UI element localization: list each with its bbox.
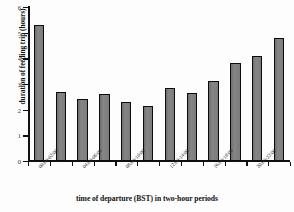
x-tick [225,162,226,166]
bar [77,99,87,161]
x-tick [72,162,73,166]
x-tick [159,162,160,166]
y-tick-label: 5 [12,29,21,36]
bar-series [28,7,290,161]
bar [34,25,44,161]
x-tick [115,162,116,166]
y-tick-label: 6 [12,4,21,11]
y-tick-label: 3 [12,81,21,88]
y-tick-label: 4 [12,55,21,62]
x-tick [203,162,204,166]
bar [252,56,262,161]
x-tick [290,162,291,166]
x-tick [137,162,138,166]
bar [230,63,240,161]
bar [165,88,175,161]
x-axis-title: time of departure (BST) in two-hour peri… [0,194,294,203]
bar [274,38,284,161]
bar-chart: duration of feeding trip (hours) 0123456… [0,0,294,212]
x-tick [268,162,269,166]
x-tick [50,162,51,166]
x-tick [181,162,182,166]
x-tick [94,162,95,166]
bar [208,81,218,161]
x-tick [28,162,29,166]
y-tick-label: 2 [12,106,21,113]
x-tick [246,162,247,166]
bar [121,102,131,161]
y-tick-label: 0 [12,158,21,165]
y-tick-label: 1 [12,132,21,139]
